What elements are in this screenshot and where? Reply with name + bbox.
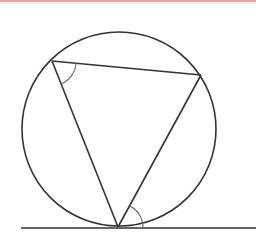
circle <box>22 32 216 226</box>
triangle-side-right <box>118 75 201 227</box>
triangle-side-top <box>52 61 201 75</box>
triangle-side-left <box>52 61 118 227</box>
angle-arc-top-left <box>61 63 76 84</box>
geometry-diagram <box>0 0 256 249</box>
